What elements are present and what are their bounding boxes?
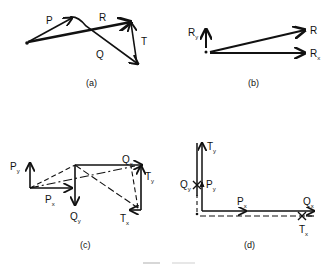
label-t: T bbox=[141, 36, 147, 47]
vector-diagram: P Q R T (a) Ry R Rx (b) bbox=[0, 0, 335, 266]
panel-d: Ty Qy Py Px Qx Tx (d) bbox=[180, 141, 314, 250]
label-rx: Rx bbox=[310, 48, 320, 61]
panel-c: Py Px Qy Qx Ty Tx (c) bbox=[10, 154, 154, 250]
label-tx: Tx bbox=[120, 213, 129, 226]
label-q: Q bbox=[96, 49, 104, 60]
label-px: Px bbox=[237, 196, 247, 209]
caption-d: (d) bbox=[244, 240, 255, 250]
label-ty: Ty bbox=[207, 141, 216, 154]
label-qy: Qy bbox=[70, 211, 81, 224]
label-ry: Ry bbox=[188, 27, 198, 40]
dashed-vector-q bbox=[75, 165, 138, 208]
label-r: R bbox=[99, 12, 106, 23]
caption-c: (c) bbox=[80, 240, 91, 250]
origin-point bbox=[205, 51, 208, 54]
vector-q bbox=[70, 17, 138, 64]
dashed-vector-t bbox=[131, 166, 138, 208]
vector-r bbox=[28, 22, 131, 42]
label-p: P bbox=[46, 15, 53, 26]
label-px: Px bbox=[45, 194, 55, 207]
vector-r bbox=[210, 30, 305, 52]
label-qy: Qy bbox=[180, 179, 191, 192]
caption-a: (a) bbox=[86, 78, 97, 88]
label-py: Py bbox=[206, 179, 216, 192]
vector-t bbox=[131, 23, 137, 64]
dashed-vector-p bbox=[30, 165, 75, 188]
vector-py bbox=[200, 182, 204, 187]
dashed-resultant-r bbox=[30, 166, 135, 188]
label-qx: Qx bbox=[303, 196, 314, 209]
label-r: R bbox=[310, 25, 317, 36]
panel-b: Ry R Rx (b) bbox=[188, 25, 320, 88]
panel-a: P Q R T (a) bbox=[25, 12, 147, 88]
origin-point bbox=[196, 213, 199, 216]
label-tx: Tx bbox=[299, 224, 308, 237]
label-ty: Ty bbox=[145, 171, 154, 184]
caption-b: (b) bbox=[248, 78, 259, 88]
label-py: Py bbox=[10, 161, 20, 174]
